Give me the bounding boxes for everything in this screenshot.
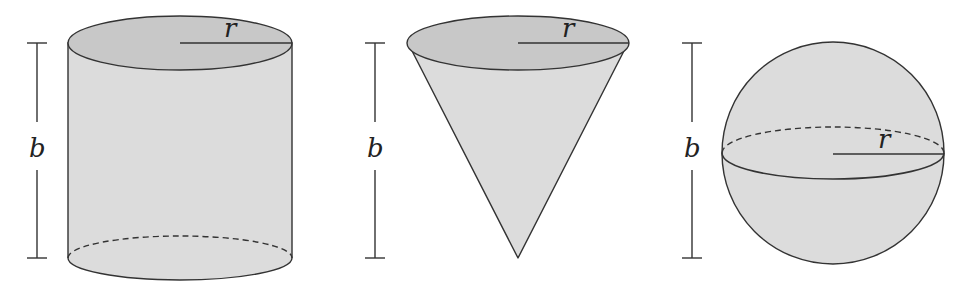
- cylinder-radius-label: r: [224, 13, 238, 43]
- sphere-radius-label: r: [878, 124, 892, 154]
- sphere: r b: [682, 42, 944, 264]
- cone-height-label: b: [367, 133, 384, 163]
- cylinder: r b: [27, 13, 292, 280]
- solids-diagram: r b r b r b: [0, 0, 965, 291]
- cylinder-height-label: b: [29, 133, 46, 163]
- cone: r b: [365, 13, 629, 258]
- cone-radius-label: r: [562, 13, 576, 43]
- sphere-height-label: b: [684, 133, 701, 163]
